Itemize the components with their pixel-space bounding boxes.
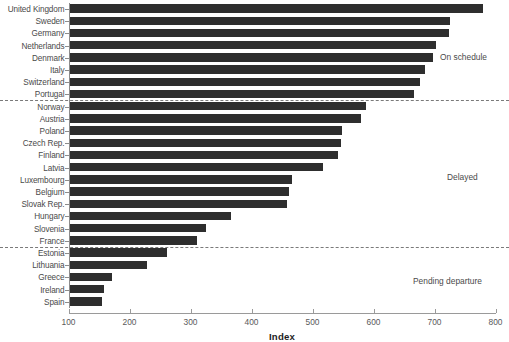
category-label: Norway [37, 102, 64, 111]
bar [69, 248, 168, 256]
y-axis-line [69, 3, 70, 308]
bar [69, 139, 342, 147]
bar [69, 187, 289, 195]
x-axis-tick [69, 309, 70, 313]
table-row: Belgium [0, 186, 509, 198]
group-separator-1 [0, 247, 509, 248]
bar [69, 261, 148, 269]
category-label: Finland [38, 151, 64, 160]
x-axis-title: Index [269, 331, 295, 342]
bar [69, 273, 112, 281]
x-axis-tick-label: 500 [306, 317, 320, 327]
category-label: Hungary [34, 212, 64, 221]
table-row: Czech Rep. [0, 137, 509, 149]
category-label: Switzerland [23, 78, 64, 87]
category-label: Italy [50, 66, 65, 75]
x-axis-tick-label: 200 [123, 317, 137, 327]
category-label: Slovak Rep. [21, 200, 64, 209]
table-row: United Kingdom [0, 3, 509, 15]
table-row: Sweden [0, 15, 509, 27]
category-label: Portugal [35, 90, 65, 99]
group-separator-0 [0, 100, 509, 101]
x-axis-tick [435, 309, 436, 313]
category-label: Poland [40, 127, 65, 136]
bar [69, 4, 484, 12]
table-row: Switzerland [0, 76, 509, 88]
bar [69, 212, 231, 220]
annotation-delayed: Delayed [447, 172, 478, 182]
bar [69, 285, 105, 293]
table-row: Austria [0, 113, 509, 125]
x-axis-tick [374, 309, 375, 313]
category-label: Sweden [36, 17, 65, 26]
x-axis-tick-label: 400 [245, 317, 259, 327]
category-label: Estonia [38, 249, 65, 258]
table-row: Spain [0, 296, 509, 308]
bar [69, 17, 450, 25]
table-row: Netherlands [0, 40, 509, 52]
category-label: France [40, 236, 65, 245]
bar [69, 78, 421, 86]
table-row: Germany [0, 27, 509, 39]
table-row: Portugal [0, 88, 509, 100]
category-label: Czech Rep. [23, 139, 65, 148]
table-row: Luxembourg [0, 174, 509, 186]
table-row: Slovak Rep. [0, 198, 509, 210]
x-axis-tick [313, 309, 314, 313]
bar [69, 200, 287, 208]
x-axis-tick-label: 300 [184, 317, 198, 327]
bar-chart: United KingdomSwedenGermanyNetherlandsDe… [0, 0, 509, 342]
category-label: Ireland [40, 285, 64, 294]
table-row: Poland [0, 125, 509, 137]
annotation-pending-departure: Pending departure [413, 276, 482, 286]
bar [69, 41, 436, 49]
table-row: Italy [0, 64, 509, 76]
category-label: Slovenia [34, 224, 65, 233]
bar [69, 163, 323, 171]
category-label: Germany [32, 29, 65, 38]
bar [69, 175, 293, 183]
category-label: Denmark [32, 53, 65, 62]
x-axis-line [69, 313, 496, 314]
bar [69, 53, 433, 61]
table-row: Slovenia [0, 223, 509, 235]
bar [69, 29, 450, 37]
category-label: Greece [38, 273, 64, 282]
category-label: Austria [40, 114, 65, 123]
x-axis-tick [191, 309, 192, 313]
category-label: Luxembourg [20, 175, 65, 184]
bar [69, 151, 338, 159]
table-row: Lithuania [0, 259, 509, 271]
table-row: Norway [0, 101, 509, 113]
bar [69, 90, 414, 98]
bar [69, 102, 366, 110]
table-row: Denmark [0, 52, 509, 64]
plot-area: United KingdomSwedenGermanyNetherlandsDe… [0, 0, 509, 342]
bar [69, 297, 103, 305]
table-row: Latvia [0, 162, 509, 174]
category-label: Belgium [36, 188, 65, 197]
x-axis-tick-label: 100 [62, 317, 76, 327]
x-axis-tick-label: 800 [489, 317, 503, 327]
bar [69, 65, 425, 73]
annotation-on-schedule: On schedule [440, 52, 487, 62]
category-label: Netherlands [21, 41, 64, 50]
bar [69, 126, 342, 134]
table-row: Hungary [0, 210, 509, 222]
x-axis-tick [496, 309, 497, 313]
table-row: France [0, 235, 509, 247]
category-label: Lithuania [32, 261, 64, 270]
table-row: Estonia [0, 247, 509, 259]
x-axis-tick-label: 600 [367, 317, 381, 327]
bar [69, 224, 206, 232]
x-axis-tick [130, 309, 131, 313]
table-row: Finland [0, 149, 509, 161]
x-axis-tick-label: 700 [428, 317, 442, 327]
x-axis-tick [252, 309, 253, 313]
category-label: Spain [44, 297, 64, 306]
bar [69, 114, 361, 122]
category-label: United Kingdom [8, 5, 65, 14]
bar [69, 236, 197, 244]
category-label: Latvia [43, 163, 64, 172]
